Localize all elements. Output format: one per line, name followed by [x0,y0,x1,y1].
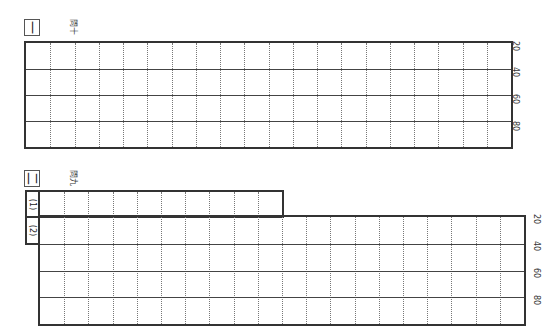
tick-label-40: 40 [532,241,540,251]
tick-label-20: 20 [511,41,519,51]
answer-grid-q10[interactable] [24,41,513,149]
tick-label-80: 80 [511,121,519,131]
tick-label-60: 60 [532,268,540,278]
grid-column-divider [137,192,138,216]
grid-column-divider [209,192,210,216]
section-number-box-1: 一 [24,19,40,36]
grid-column-divider [113,192,114,216]
question-title-9: 問九 [69,170,77,186]
section-number-glyph: 一 [26,21,39,34]
grid-column-divider [64,192,65,216]
grid-column-divider [234,192,235,216]
question-title-10: 問十 [69,19,77,35]
tick-label-60: 60 [511,94,519,104]
grid-column-divider [258,192,259,216]
subpart-label-text: (2) [28,225,37,236]
grid-row-divider [26,69,511,70]
grid-row-divider [26,121,511,122]
answer-grid-q9-part1[interactable] [38,190,284,218]
tick-label-20: 20 [532,214,540,224]
answer-grid-q9-part2[interactable] [38,215,526,326]
tick-label-80: 80 [532,295,540,305]
grid-column-divider [161,192,162,216]
grid-row-divider [40,271,524,272]
grid-column-divider [88,192,89,216]
tick-label-40: 40 [511,67,519,77]
grid-row-divider [40,297,524,298]
grid-row-divider [40,244,524,245]
grid-row-divider [26,95,511,96]
subpart-label-text: (1) [28,198,37,209]
section-number-box-2: 二 [24,170,40,187]
grid-column-divider [185,192,186,216]
section-number-glyph: 二 [26,172,39,185]
